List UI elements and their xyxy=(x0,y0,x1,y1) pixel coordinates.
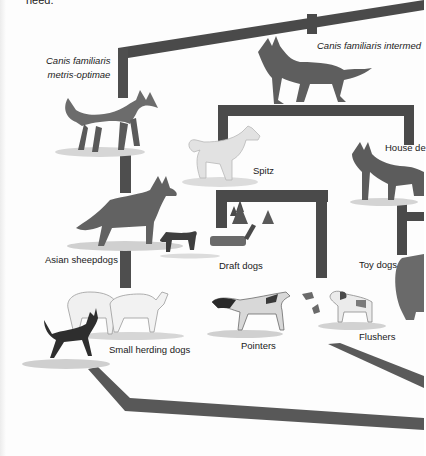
label-metris-optimae-line1: Canis familiaris xyxy=(46,55,110,67)
label-toy-dogs: Toy dogs xyxy=(359,259,397,271)
label-small-herding-dogs: Small herding dogs xyxy=(109,344,190,356)
dog-metris-optimae-illustration xyxy=(55,90,158,157)
label-flushers: Flushers xyxy=(359,331,395,343)
label-pointers: Pointers xyxy=(241,340,276,352)
flushers-illustration xyxy=(302,291,386,330)
dog-toy-dog-illustration xyxy=(395,254,424,320)
dog-pointer-illustration xyxy=(207,292,290,338)
branch-bottom xyxy=(88,367,424,430)
label-intermedius: Canis familiaris intermed xyxy=(317,40,421,52)
label-metris-optimae-line2: metris-optimae xyxy=(46,69,110,81)
label-spitz: Spitz xyxy=(253,165,274,177)
label-metris-optimae: Canis familiaris metris-optimae xyxy=(46,55,110,81)
label-asian-sheepdogs: Asian sheepdogs xyxy=(45,254,118,266)
branch-flushers xyxy=(328,343,424,388)
branch-house-dogs xyxy=(397,203,424,255)
small-herding-dogs-illustration xyxy=(22,292,184,369)
label-house-dogs: House de xyxy=(385,142,426,154)
label-draft-dogs: Draft dogs xyxy=(219,260,263,272)
